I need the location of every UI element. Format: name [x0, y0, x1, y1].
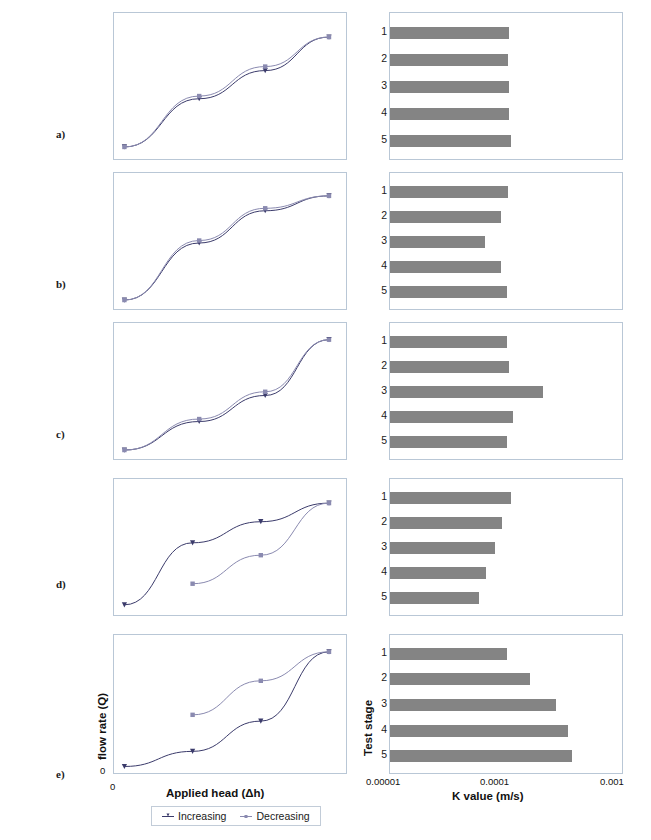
data-point-marker	[263, 390, 267, 394]
data-point-marker	[327, 650, 331, 654]
bar-stage-5	[390, 135, 511, 147]
bar-chart-e	[389, 634, 623, 774]
bar-stage-1	[390, 336, 507, 348]
line-plot-area	[114, 323, 348, 461]
bar-stage-2	[390, 673, 530, 685]
bar-stage-1	[390, 27, 509, 39]
data-point-marker	[197, 94, 201, 98]
y-axis-title-flow-rate: flow rate (Q)	[96, 693, 108, 760]
bar-stage-3	[390, 236, 485, 248]
bar-stage-3	[390, 699, 556, 711]
legend: Increasing Decreasing	[151, 806, 321, 826]
legend-label-decreasing: Decreasing	[256, 810, 309, 822]
stage-label-2: 2	[373, 671, 387, 683]
stage-label-5: 5	[373, 748, 387, 760]
bar-stage-3	[390, 81, 509, 93]
series-line-decreasing	[124, 340, 329, 450]
x-tick-min: 0.00001	[366, 776, 400, 787]
bar-stage-5	[390, 750, 572, 762]
panel-label-a: a)	[56, 128, 65, 140]
stage-label-4: 4	[373, 259, 387, 271]
panel-label-d: d)	[56, 578, 66, 590]
bar-stage-4	[390, 567, 486, 579]
x-axis-title-k-value: K value (m/s)	[452, 790, 524, 802]
x-tick-mid: 0.0001	[480, 776, 509, 787]
stage-label-1: 1	[373, 646, 387, 658]
stage-label-3: 3	[373, 540, 387, 552]
data-point-marker	[122, 145, 126, 149]
bar-chart-d	[389, 478, 623, 616]
series-line-increasing	[124, 503, 329, 605]
stage-label-3: 3	[373, 79, 387, 91]
stage-label-5: 5	[373, 434, 387, 446]
bar-stage-1	[390, 492, 511, 504]
bar-stage-5	[390, 592, 479, 604]
series-line-increasing	[124, 652, 329, 767]
line-chart-c	[113, 322, 347, 460]
stage-label-4: 4	[373, 409, 387, 421]
stage-label-1: 1	[373, 334, 387, 346]
line-marker-increasing-icon	[162, 812, 175, 821]
stage-label-1: 1	[373, 490, 387, 502]
line-chart-e	[113, 634, 347, 774]
series-line-increasing	[124, 340, 329, 450]
data-point-marker	[327, 194, 331, 198]
series-line-decreasing	[193, 652, 329, 715]
bar-stage-2	[390, 517, 502, 529]
data-point-marker	[327, 337, 331, 341]
line-marker-decreasing-icon	[240, 812, 253, 821]
stage-label-4: 4	[373, 723, 387, 735]
stage-label-5: 5	[373, 284, 387, 296]
line-plot-area	[114, 13, 348, 161]
series-line-decreasing	[193, 503, 329, 584]
stage-label-2: 2	[373, 209, 387, 221]
data-point-marker	[327, 35, 331, 39]
bar-stage-3	[390, 542, 495, 554]
stage-label-4: 4	[373, 106, 387, 118]
legend-item-increasing: Increasing	[162, 810, 226, 822]
data-point-marker	[327, 501, 331, 505]
bar-stage-4	[390, 261, 501, 273]
legend-item-decreasing: Decreasing	[240, 810, 309, 822]
stage-label-4: 4	[373, 565, 387, 577]
bar-stage-5	[390, 286, 507, 298]
stage-label-5: 5	[373, 133, 387, 145]
data-point-marker	[259, 679, 263, 683]
stage-label-5: 5	[373, 590, 387, 602]
line-plot-area	[114, 173, 348, 311]
line-chart-a	[113, 12, 347, 160]
x-axis-title-applied-head: Applied head (Δh)	[166, 787, 264, 799]
data-point-marker	[197, 238, 201, 242]
series-line-decreasing	[124, 196, 329, 300]
bar-stage-1	[390, 186, 508, 198]
panel-label-b: b)	[56, 278, 66, 290]
panel-label-e: e)	[56, 768, 65, 780]
data-point-marker	[122, 448, 126, 452]
bar-stage-4	[390, 108, 509, 120]
data-point-marker	[190, 713, 194, 717]
data-point-marker	[197, 417, 201, 421]
stage-label-3: 3	[373, 234, 387, 246]
bar-stage-2	[390, 211, 501, 223]
data-point-marker	[263, 206, 267, 210]
data-point-marker	[190, 582, 194, 586]
stage-label-1: 1	[373, 25, 387, 37]
bar-chart-c	[389, 322, 623, 460]
x-axis-zero-tick: 0	[110, 781, 115, 792]
bar-stage-3	[390, 386, 543, 398]
series-line-increasing	[124, 196, 329, 300]
bar-stage-1	[390, 648, 507, 660]
bar-stage-2	[390, 54, 508, 66]
bar-stage-4	[390, 411, 513, 423]
data-point-marker	[259, 553, 263, 557]
y-axis-zero-tick: 0	[100, 765, 105, 776]
stage-label-3: 3	[373, 697, 387, 709]
bar-chart-b	[389, 172, 623, 310]
line-chart-d	[113, 478, 347, 616]
stage-label-2: 2	[373, 359, 387, 371]
line-chart-b	[113, 172, 347, 310]
x-tick-max: 0.001	[600, 776, 624, 787]
bar-stage-2	[390, 361, 509, 373]
line-plot-area	[114, 479, 348, 617]
series-line-decreasing	[124, 37, 329, 147]
